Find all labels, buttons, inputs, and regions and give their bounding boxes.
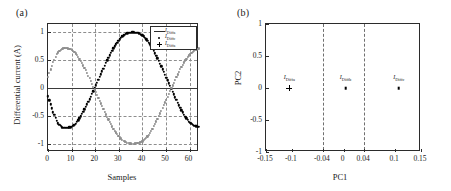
- panel-b-x-tick: [323, 149, 324, 152]
- panel-a-data-point: [175, 76, 177, 78]
- panel-a-data-point: [100, 73, 102, 75]
- panel-b-data-point: [286, 85, 292, 91]
- panel-a: (a) Differential current (A) Samples IDi…: [0, 0, 225, 191]
- panel-a-data-point: [180, 66, 182, 68]
- legend-item-label: IDiffa: [165, 40, 175, 49]
- panel-a-data-point: [156, 118, 158, 120]
- panel-a-y-tick: [48, 144, 51, 145]
- panel-a-data-point: [163, 104, 165, 106]
- panel-a-data-point: [160, 110, 162, 112]
- panel-a-data-point: [177, 73, 179, 75]
- panel-a-x-tick: [48, 149, 49, 152]
- panel-a-data-point: [155, 120, 157, 122]
- panel-b-point-label: IDiffc: [393, 74, 404, 82]
- panel-a-data-point: [158, 115, 160, 117]
- panel-a-y-tick-label: 0.5: [23, 55, 44, 64]
- panel-b-y-tick: [266, 56, 269, 57]
- panel-b-y-tick-label: -1: [243, 147, 262, 156]
- panel-a-data-point: [154, 123, 156, 125]
- panel-a-data-point: [174, 79, 176, 81]
- panel-a-gridline-vertical: [119, 24, 120, 150]
- panel-b-y-tick-label: 0: [243, 83, 262, 92]
- panel-a-data-point: [52, 61, 54, 63]
- panel-b-x-tick-label: 0.1: [389, 154, 398, 163]
- panel-a-data-point: [49, 68, 51, 70]
- panel-b-y-tick: [266, 24, 269, 25]
- panel-a-data-point: [47, 95, 49, 97]
- panel-b-x-tick: [344, 149, 345, 152]
- panel-a-gridline-vertical: [142, 24, 143, 150]
- panel-a-y-tick-label: 1: [23, 27, 44, 36]
- panel-b-x-tick-label: 0: [341, 154, 345, 163]
- panel-a-x-tick: [95, 149, 96, 152]
- panel-b-point-label: IDiffa: [284, 74, 295, 82]
- panel-b-x-tick: [292, 149, 293, 152]
- panel-a-data-point: [151, 127, 153, 129]
- panel-a-y-tick: [48, 60, 51, 61]
- panel-a-data-point: [153, 125, 155, 127]
- panel-a-x-tick-label: 40: [138, 154, 146, 163]
- panel-b-y-tick: [266, 88, 269, 89]
- panel-a-data-point: [183, 61, 185, 63]
- panel-a-data-point: [48, 99, 50, 101]
- panel-a-x-tick-label: 30: [114, 154, 122, 163]
- panel-a-data-point: [97, 79, 99, 81]
- panel-b-point-label: IDiffb: [340, 74, 351, 82]
- dot-glyph-icon: [158, 37, 160, 39]
- panel-a-gridline-horizontal: [48, 60, 197, 61]
- panel-a-data-point: [51, 107, 53, 109]
- panel-a-y-tick-label: -0.5: [23, 110, 44, 119]
- panel-a-data-point: [51, 65, 53, 67]
- panel-b-x-tick-label: -0.1: [285, 154, 297, 163]
- panel-a-data-point: [166, 96, 168, 98]
- panel-a-data-point: [171, 84, 173, 86]
- panel-a-x-tick: [190, 149, 191, 152]
- panel-a-data-point: [54, 56, 56, 58]
- panel-b-y-tick: [266, 152, 269, 153]
- panel-a-y-tick: [48, 32, 51, 33]
- line-glyph-icon: [154, 31, 165, 32]
- panel-b-data-point: [344, 87, 347, 90]
- panel-b-x-tick: [421, 149, 422, 152]
- panel-a-legend: IDiffaIDiffcIDiffa: [150, 26, 197, 50]
- panel-b-y-tick: [266, 120, 269, 121]
- panel-a-gridline-horizontal: [48, 144, 197, 145]
- panel-b-data-point: [397, 87, 400, 90]
- panel-a-data-point: [56, 53, 58, 55]
- panel-a-plot-area: IDiffaIDiffcIDiffa: [47, 23, 198, 151]
- panel-b-threshold-line: [364, 24, 365, 150]
- panel-a-x-tick: [166, 149, 167, 152]
- panel-a-data-point: [178, 71, 180, 73]
- panel-a-data-point: [148, 133, 150, 135]
- panel-a-data-point: [150, 130, 152, 132]
- panel-a-y-tick: [48, 116, 51, 117]
- plus-glyph-icon: [157, 42, 162, 47]
- panel-a-data-point: [198, 47, 200, 49]
- panel-b-tag: (b): [237, 7, 249, 18]
- panel-b-y-tick-label: -0.5: [243, 115, 262, 124]
- panel-a-series-line-I_Diffa: [48, 88, 197, 89]
- panel-a-x-tick-label: 10: [67, 154, 75, 163]
- panel-a-data-point: [47, 76, 49, 78]
- panel-a-data-point: [198, 126, 200, 128]
- panel-b-x-tick-label: 0.04: [357, 154, 370, 163]
- figure-container: (a) Differential current (A) Samples IDi…: [0, 0, 451, 191]
- panel-b-y-tick-label: 0.5: [243, 51, 262, 60]
- panel-a-data-point: [165, 98, 167, 100]
- panel-a-x-tick-label: 0: [45, 154, 49, 163]
- panel-a-gridline-vertical: [72, 24, 73, 150]
- panel-a-x-tick-label: 60: [185, 154, 193, 163]
- panel-a-x-tick: [119, 149, 120, 152]
- panel-b-y-axis-title: PC2: [233, 48, 243, 108]
- panel-a-data-point: [159, 112, 161, 114]
- panel-a-data-point: [161, 107, 163, 109]
- panel-a-x-axis-title: Samples: [47, 172, 197, 182]
- panel-a-x-tick-label: 50: [161, 154, 169, 163]
- panel-a-data-point: [179, 68, 181, 70]
- panel-a-data-point: [146, 135, 148, 137]
- panel-a-data-point: [49, 103, 51, 105]
- panel-b-y-tick-label: 1: [243, 19, 262, 28]
- panel-b-x-tick: [364, 149, 365, 152]
- panel-a-y-axis-title: Differential current (A): [12, 30, 22, 140]
- panel-a-y-tick-label: 0: [23, 83, 44, 92]
